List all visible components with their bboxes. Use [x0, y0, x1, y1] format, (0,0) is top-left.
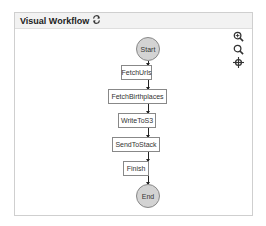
zoom-in-icon[interactable] [233, 31, 244, 42]
arrow [148, 152, 149, 161]
arrow [148, 80, 149, 89]
step-node-fetchurls[interactable]: FetchUrls [121, 65, 152, 80]
arrow [148, 176, 149, 184]
arrow [148, 128, 149, 137]
start-node[interactable]: Start [136, 37, 160, 61]
refresh-icon[interactable] [92, 15, 101, 26]
panel-header: Visual Workflow [15, 13, 252, 29]
step-node-finish[interactable]: Finish [123, 161, 149, 176]
zoom-out-icon[interactable] [233, 44, 244, 55]
recenter-icon[interactable] [233, 57, 244, 68]
end-node[interactable]: End [136, 184, 160, 208]
arrow [148, 104, 149, 113]
visual-workflow-panel: Visual Workflow Start FetchUrls FetchBir… [14, 12, 253, 216]
step-node-fetchbirthplaces[interactable]: FetchBirthplaces [108, 89, 167, 104]
panel-title: Visual Workflow [20, 16, 89, 26]
step-node-writetos3[interactable]: WriteToS3 [118, 113, 156, 128]
step-node-sendtostack[interactable]: SendToStack [112, 137, 160, 152]
zoom-toolbar [233, 31, 244, 68]
